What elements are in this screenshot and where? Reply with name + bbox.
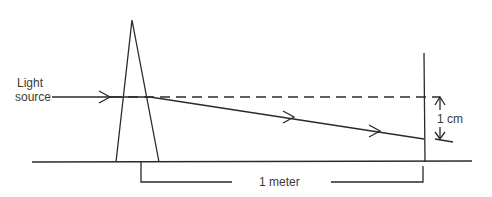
prism [116,20,159,162]
deflection-label: 1 cm [437,112,463,126]
light-source-label-line2: source [15,90,51,104]
screen [424,53,425,162]
ground-line [32,161,472,162]
distance-bracket-left [141,162,232,182]
refracted-ray [150,97,424,139]
light-source-label-line1: Light [17,76,44,90]
distance-label: 1 meter [259,175,300,189]
prism-deflection-diagram: Light source 1 cm 1 meter [0,0,492,197]
deflection-marker-bottom [435,139,453,142]
distance-bracket-right [331,166,423,182]
